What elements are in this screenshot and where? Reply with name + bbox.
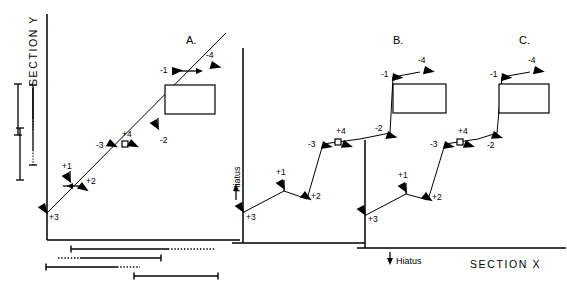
range-bar-x-3 [46,264,140,271]
panel-label-b: B. [393,34,403,46]
panel-a-label-p2: +2 [86,176,96,186]
panel-b-uncertainty-box [393,84,446,113]
panel-b-datum-p2: +2 [300,191,321,204]
panel-c-datum-m2: -2 [487,131,504,150]
panel-b-datum-p3: +3 [235,202,256,222]
panel-b-label-m4: -4 [418,55,426,65]
panel-a-label-p1: +1 [62,161,72,171]
y-axis-title: SECTION Y [27,15,39,86]
panel-a-label-m2: -2 [160,135,168,145]
range-bar-x-2 [58,255,161,262]
range-bar-x-4 [134,273,218,280]
x-axis-title: SECTION X [470,258,541,270]
panel-b-label-p1: +1 [276,167,286,177]
panel-b-label-p3: +3 [246,212,256,222]
panel-a-datum-p3: +3 [38,203,59,222]
panel-c-label-m3: -3 [430,139,438,149]
panel-a-datum-p4-tri [127,139,141,152]
panel-c-label-p1: +1 [398,170,408,180]
range-bars-y [14,84,37,180]
panel-c-label-p4: +4 [458,126,468,136]
panel-label-a: A. [186,34,196,46]
panel-a-datum-m4: -4 [206,50,222,72]
panel-b-datum-m4: -4 [418,55,436,77]
x-axis-title-group: SECTION X [470,258,541,270]
panel-c-label-p3: +3 [368,214,378,224]
panel-c-datum-m4: -4 [528,55,546,77]
panel-c-label-m2: -2 [487,140,495,150]
panel-b-label-m3: -3 [308,139,316,149]
panel-a-label-p4: +4 [122,129,132,139]
graphic-correlation-figure: SECTION Y SECTION X A. +3 +1 [0,0,567,283]
panel-a-label-m4: -4 [206,50,214,60]
range-bars-x [46,246,218,280]
panel-a-datum-m1: -1 [160,65,203,75]
panel-b-hiatus-vertical: Hiatus [232,166,242,200]
panel-c-hiatus-label: Hiatus [396,256,422,266]
panel-a-label-p3: +3 [49,212,59,222]
panel-a-datum-p1: +1 [62,161,75,186]
panel-a-label-m1: -1 [160,65,168,75]
panel-c-datum-p3: +3 [357,205,378,224]
range-bar-y-4 [29,88,37,165]
panel-a-uncertainty-box [165,85,215,114]
panel-c-label-m4: -4 [528,55,536,65]
panel-label-c: C. [519,34,530,46]
panel-c-axes [357,140,566,248]
range-bar-y-3 [16,128,24,180]
panel-b-label-m1: -1 [381,69,389,79]
panel-c-datum-p1: +1 [398,170,411,196]
panel-c-datum-p4-tri [463,140,476,152]
panel-b-datum-p1: +1 [276,167,289,193]
panel-c-label-p2: +2 [432,192,442,202]
panel-c-datum-p2: +2 [421,192,442,205]
panel-b-label-m2: -2 [375,123,383,133]
panel-c-hiatus-horizontal: Hiatus [387,252,422,266]
figure-canvas: SECTION Y SECTION X A. +3 +1 [0,0,567,283]
range-bar-x-1 [71,246,215,253]
panel-c-label-m1: -1 [490,69,498,79]
panel-a-datum-m2: -2 [150,118,168,145]
panel-b-datum-m2: -2 [375,123,398,142]
panel-a-label-m3: -3 [96,140,104,150]
panel-c-uncertainty-box [499,84,549,113]
panel-b-label-p2: +2 [311,191,321,201]
y-axis-title-group: SECTION Y [27,15,39,86]
panel-b-label-p4: +4 [336,126,346,136]
panel-a-datum-m3: -3 [96,139,120,152]
